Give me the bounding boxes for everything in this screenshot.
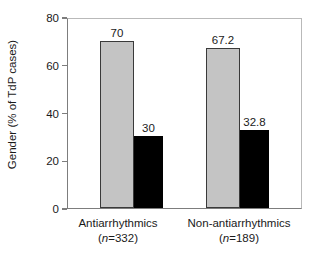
bar-chart-figure: Gender (% of TdP cases) 0 20 40 60 80 70 bbox=[0, 0, 317, 259]
bar-non-antiarrhythmics-gray: 67.2 bbox=[206, 48, 240, 208]
y-tick-label: 0 bbox=[53, 201, 59, 217]
plot-area: 70 30 67.2 32.8 bbox=[67, 18, 302, 209]
x-axis-category-name: Antiarrhythmics bbox=[78, 217, 157, 229]
x-axis-label-antiarrhythmics: Antiarrhythmics (n=332) bbox=[62, 216, 174, 246]
bar-value-label: 32.8 bbox=[243, 115, 265, 129]
bar-value-label: 70 bbox=[111, 26, 124, 40]
y-tick-label: 40 bbox=[46, 106, 59, 122]
bar-antiarrhythmics-gray: 70 bbox=[100, 41, 134, 208]
x-axis-category-name: Non-antiarrhythmics bbox=[188, 217, 291, 229]
x-axis-category-count: (n=189) bbox=[165, 231, 313, 246]
y-tick-label: 20 bbox=[46, 153, 59, 169]
bar-value-label: 67.2 bbox=[212, 33, 234, 47]
x-axis-category-count: (n=332) bbox=[62, 231, 174, 246]
y-axis-title: Gender (% of TdP cases) bbox=[4, 0, 20, 209]
bar-antiarrhythmics-black: 30 bbox=[134, 136, 163, 208]
y-tick-label: 60 bbox=[46, 58, 59, 74]
y-tick-label: 80 bbox=[46, 10, 59, 26]
bar-non-antiarrhythmics-black: 32.8 bbox=[240, 130, 269, 208]
bar-value-label: 30 bbox=[142, 121, 155, 135]
x-axis-label-non-antiarrhythmics: Non-antiarrhythmics (n=189) bbox=[165, 216, 313, 246]
